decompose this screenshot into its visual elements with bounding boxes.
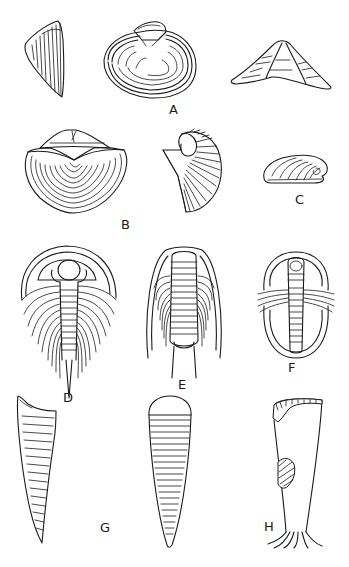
fossil-plate <box>0 0 349 567</box>
figure-h-tube-fossil <box>268 399 322 548</box>
figure-a-dorsal-shell <box>104 22 196 98</box>
figure-label-c: C <box>295 193 304 206</box>
figure-g-hyolith-side <box>17 396 56 543</box>
figure-b-concentric-shell <box>25 130 126 213</box>
figure-label-f: F <box>288 361 295 374</box>
figure-a-profile-shell <box>231 41 331 89</box>
figure-label-e: E <box>178 378 186 391</box>
figure-c-coiled-shell <box>264 155 328 183</box>
figure-label-h: H <box>264 520 274 533</box>
figure-label-b: B <box>121 218 130 231</box>
figure-d-trilobite <box>21 246 116 398</box>
figure-g-hyolith-front <box>149 396 191 547</box>
figure-label-g: G <box>100 521 110 534</box>
figure-e-trilobite <box>147 247 221 378</box>
figure-label-a: A <box>169 103 178 116</box>
figure-label-d: D <box>63 391 73 404</box>
figure-b-fan-shell <box>163 129 221 212</box>
figure-f-trilobite <box>258 252 334 358</box>
figure-a-side-shell <box>25 21 64 97</box>
